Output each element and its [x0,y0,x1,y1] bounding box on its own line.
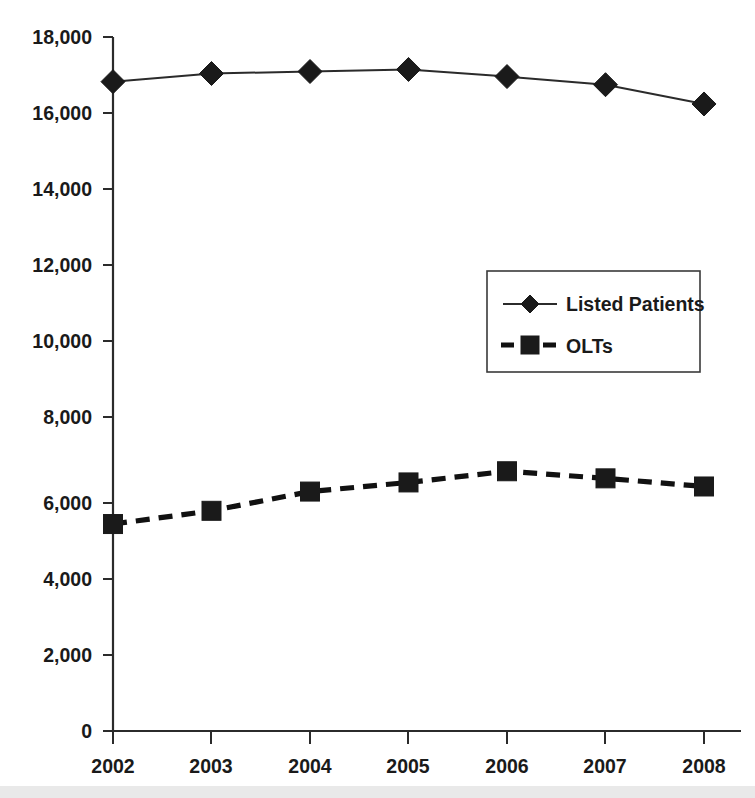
square-marker-icon [202,501,221,520]
y-tick-label-16000: 16,000 [32,102,92,124]
line-chart: 18,000 16,000 14,000 12,000 10,000 8,000… [0,0,755,798]
diamond-marker-icon [298,60,322,84]
series-listed-patients [101,57,716,116]
diamond-marker-icon [594,73,618,97]
x-tick-label-2006: 2006 [485,755,529,777]
diamond-marker-icon [397,57,421,81]
chart-container: 18,000 16,000 14,000 12,000 10,000 8,000… [0,0,755,798]
legend-label-olts: OLTs [566,335,613,357]
y-tick-label-2000: 2,000 [43,644,92,666]
x-tick-label-2004: 2004 [288,755,332,777]
y-tick-label-6000: 6,000 [43,492,92,514]
square-marker-icon [301,482,320,501]
x-tick-label-2002: 2002 [91,755,135,777]
square-marker-icon [104,515,123,534]
diamond-marker-icon [692,92,716,116]
diamond-marker-icon [101,70,125,94]
series-olts [104,462,714,534]
x-tick-label-2003: 2003 [189,755,233,777]
x-tick-label-2007: 2007 [583,755,626,777]
x-axis-tick-labels: 2002 2003 2004 2005 2006 2007 2008 [91,755,726,777]
square-marker-icon [596,469,615,488]
chart-legend: Listed Patients OLTs [487,271,705,372]
y-tick-label-12000: 12,000 [32,254,92,276]
y-tick-label-8000: 8,000 [43,406,92,428]
y-tick-label-4000: 4,000 [43,568,92,590]
bottom-gray-band [0,786,755,798]
x-tick-label-2005: 2005 [386,755,430,777]
y-tick-label-0: 0 [81,720,92,742]
x-axis-ticks [113,731,704,744]
y-tick-label-14000: 14,000 [32,178,92,200]
legend-label-listed-patients: Listed Patients [566,293,705,315]
square-marker-icon [521,336,539,354]
square-marker-icon [399,473,418,492]
y-axis-ticks [103,37,113,731]
y-axis-tick-labels: 18,000 16,000 14,000 12,000 10,000 8,000… [32,26,92,742]
x-tick-label-2008: 2008 [682,755,726,777]
y-tick-label-18000: 18,000 [32,26,92,48]
diamond-marker-icon [200,62,224,86]
diamond-marker-icon [495,65,519,89]
y-tick-label-10000: 10,000 [32,330,92,352]
square-marker-icon [498,462,517,481]
square-marker-icon [695,477,714,496]
